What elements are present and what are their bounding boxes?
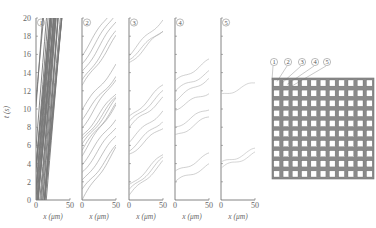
trajectory-line <box>82 147 116 200</box>
y-tick-label: 0 <box>27 196 31 205</box>
y-tick-label: 16 <box>23 50 31 59</box>
y-tick-label: 6 <box>27 141 31 150</box>
y-axis-label: t (s) <box>2 106 11 118</box>
y-tick-label: 12 <box>23 87 31 96</box>
trajectory-line <box>82 97 116 139</box>
x-tick-label: 50 <box>159 201 167 210</box>
y-tick-label: 20 <box>23 14 31 23</box>
y-tick-label: 18 <box>23 32 31 41</box>
trajectory-line <box>129 160 163 195</box>
trajectory-line <box>129 97 163 128</box>
x-tick-label: 50 <box>251 201 259 210</box>
trajectory-line <box>129 157 163 190</box>
trajectory-line <box>129 85 163 117</box>
x-tick-label: 50 <box>66 201 74 210</box>
x-tick-label: 0 <box>219 201 223 210</box>
trajectory-line <box>221 148 255 162</box>
panel-label: 3 <box>132 19 135 26</box>
x-tick-label: 0 <box>80 201 84 210</box>
panel-label: 2 <box>85 19 88 26</box>
trajectory-line <box>82 128 116 172</box>
inset-label: 5 <box>325 58 328 65</box>
x-tick-label: 0 <box>173 201 177 210</box>
x-axis-label: x (μm) <box>135 212 156 221</box>
trajectory-line <box>129 155 163 185</box>
trajectory-line <box>82 5 116 56</box>
trajectory-line <box>175 164 209 182</box>
x-tick-label: 50 <box>112 201 120 210</box>
panel-label: 4 <box>178 19 182 26</box>
inset-lattice: 12345 <box>270 58 374 179</box>
inset-label: 2 <box>286 58 289 65</box>
trajectory-line <box>129 111 163 143</box>
y-tick-label: 14 <box>23 69 31 78</box>
panel-3: 050x (μm)3 <box>127 18 167 221</box>
y-tick-label: 10 <box>23 105 31 114</box>
figure: t (s)02468101214161820050x (μm)1050x (μm… <box>0 0 376 228</box>
x-tick-label: 0 <box>34 201 38 210</box>
panel-1: 050x (μm)1 <box>34 0 74 228</box>
trajectory-line <box>175 59 209 81</box>
trajectory-line <box>129 32 163 63</box>
inset-label: 3 <box>300 58 303 65</box>
panel-4: 050x (μm)4 <box>173 18 213 221</box>
x-axis-label: x (μm) <box>227 212 248 221</box>
trajectory-line <box>175 153 209 171</box>
panel-2: 050x (μm)2 <box>80 5 120 221</box>
inset-label: 1 <box>272 58 275 65</box>
x-axis-label: x (μm) <box>42 212 63 221</box>
y-tick-label: 4 <box>27 160 31 169</box>
trajectory-line <box>175 110 209 127</box>
x-tick-label: 0 <box>127 201 131 210</box>
trajectory-line <box>221 83 255 94</box>
trajectory-line <box>175 94 209 111</box>
x-axis-label: x (μm) <box>181 212 202 221</box>
trajectory-line <box>82 94 116 135</box>
trajectory-line <box>82 35 116 85</box>
panel-5: 050x (μm)5 <box>219 18 259 221</box>
trajectory-line <box>129 129 163 155</box>
trajectory-line <box>82 22 116 71</box>
y-tick-label: 8 <box>27 123 31 132</box>
y-tick-label: 2 <box>27 178 31 187</box>
x-axis-label: x (μm) <box>88 212 109 221</box>
panel-label: 5 <box>224 19 227 26</box>
x-tick-label: 50 <box>205 201 213 210</box>
